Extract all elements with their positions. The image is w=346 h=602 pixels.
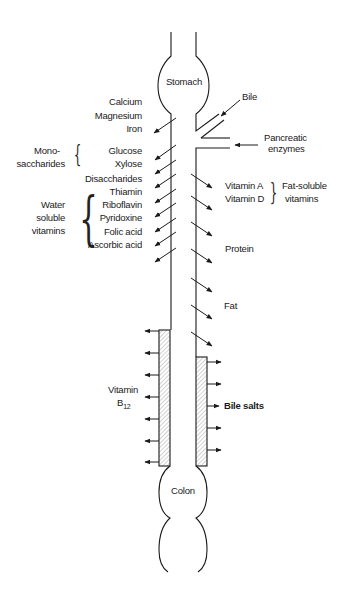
- bile-duct-lower: [201, 120, 224, 138]
- label-vitamin-b12-line1: Vitamin: [108, 384, 138, 395]
- label-pyridoxine: Pyridoxine: [100, 212, 142, 223]
- ileum-left-absorptive-segment: [159, 330, 170, 466]
- bile-arrow: [221, 100, 240, 116]
- water-soluble-group-line2: soluble: [36, 212, 65, 223]
- label-vitamin-d: Vitamin D: [225, 193, 264, 204]
- colon-label: Colon: [160, 485, 206, 496]
- water-soluble-group-line1: Water: [41, 199, 65, 210]
- label-magnesium: Magnesium: [95, 110, 142, 121]
- water-soluble-group-line3: vitamins: [32, 225, 65, 236]
- label-fat: Fat: [224, 300, 237, 311]
- stomach-label: Stomach: [160, 76, 208, 87]
- label-bile-salts: Bile salts: [224, 400, 264, 411]
- label-iron: Iron: [126, 123, 142, 134]
- label-xylose: Xylose: [115, 158, 142, 169]
- colon-right-wall: [196, 466, 207, 572]
- label-vitamin-a: Vitamin A: [225, 180, 263, 191]
- label-riboflavin: Riboflavin: [102, 199, 142, 210]
- fat-soluble-brace: }: [270, 180, 278, 204]
- label-disaccharides: Disaccharides: [85, 173, 142, 184]
- pancreatic-label-line1: Pancreatic: [264, 132, 307, 143]
- fat-soluble-group-line2: vitamins: [285, 193, 318, 204]
- gi-tract-diagram: [0, 0, 346, 602]
- label-ascorbic-acid: Ascorbic acid: [88, 239, 142, 250]
- bile-label: Bile: [242, 91, 257, 102]
- label-vitamin-b12-line2: B12: [117, 397, 131, 412]
- colon-left-wall: [159, 466, 170, 572]
- fat-soluble-group-line1: Fat-soluble: [282, 180, 327, 191]
- label-calcium: Calcium: [109, 96, 142, 107]
- label-protein: Protein: [225, 243, 254, 254]
- label-thiamin: Thiamin: [110, 186, 142, 197]
- monosaccharides-group-line2: saccharides: [17, 158, 66, 169]
- pancreatic-label-line2: enzymes: [268, 143, 305, 154]
- monosaccharides-brace: {: [74, 142, 82, 166]
- monosaccharides-group-line1: Mono-: [34, 145, 60, 156]
- ileum-right-absorptive-segment: [196, 357, 207, 466]
- label-glucose: Glucose: [109, 145, 142, 156]
- label-folic-acid: Folic acid: [104, 226, 142, 237]
